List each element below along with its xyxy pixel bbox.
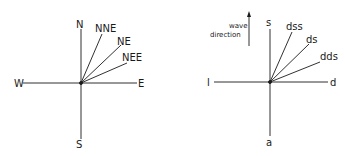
- label-dds: dds: [320, 51, 338, 62]
- origin-dot: [80, 82, 83, 85]
- ds-ray: [270, 44, 309, 82]
- label-west: W: [14, 78, 24, 89]
- label-a: a: [266, 137, 272, 148]
- label-dss: dss: [286, 21, 303, 32]
- ne-ray: [81, 45, 121, 83]
- diagram-canvas: N NNE NE NEE W E S wave direction s dss …: [0, 0, 345, 156]
- origin-dot: [269, 81, 272, 84]
- label-east: E: [138, 78, 144, 89]
- label-ne: NE: [117, 36, 131, 47]
- label-s: s: [266, 17, 271, 28]
- label-nne: NNE: [95, 23, 116, 34]
- label-l: l: [207, 77, 210, 88]
- wave-direction-label-line1: wave: [229, 22, 247, 30]
- label-nee: NEE: [122, 52, 142, 63]
- label-ds: ds: [306, 34, 318, 45]
- label-north: N: [76, 19, 83, 30]
- wave-direction-label-line2: direction: [210, 31, 241, 39]
- arrow-head-icon: [247, 11, 251, 17]
- label-d: d: [330, 77, 336, 88]
- label-south: S: [76, 139, 82, 150]
